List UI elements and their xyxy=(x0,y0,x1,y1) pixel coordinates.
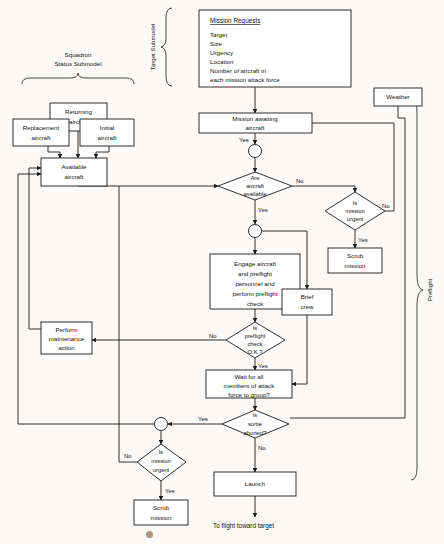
edge-maint-loop-up xyxy=(29,168,41,329)
node-is-preflight-ok[interactable]: Is preflight check O.K.? xyxy=(226,322,285,358)
available-aircraft-line2: aircraft xyxy=(65,173,84,180)
flowchart-svg: Target Submodel Squadron Status Submodel… xyxy=(0,0,444,544)
wait-line2: members of attack xyxy=(224,382,276,389)
engage-line4: perform preflight xyxy=(232,290,277,297)
edge-urgent-top-no-return xyxy=(282,123,394,211)
edge-no-to-urgent-top xyxy=(292,186,355,192)
sortie-line1: Is xyxy=(253,412,258,418)
sortie-line2: sortie xyxy=(248,421,262,427)
node-are-aircraft-available[interactable]: Are aircraft available xyxy=(218,172,292,200)
scrub-top-line2: mission xyxy=(345,262,367,269)
edge-brief-to-wait xyxy=(292,315,307,384)
weather-label: Weather xyxy=(386,93,409,100)
node-perform-maintenance[interactable]: Perform maintenance action xyxy=(41,322,92,354)
returning-aircraft-line1: Returning xyxy=(65,108,92,115)
flowchart-canvas: Target Submodel Squadron Status Submodel… xyxy=(0,0,444,544)
node-is-mission-urgent-bottom[interactable]: Is mission urgent xyxy=(137,444,186,481)
engage-line2: and preflight xyxy=(238,270,272,277)
preflight-line3: check xyxy=(247,341,262,347)
node-is-sortie-aborted[interactable]: Is sortie aborted? xyxy=(222,410,289,438)
maint-line1: Perform xyxy=(55,326,77,333)
page-smudge-artifact xyxy=(146,531,153,538)
maint-line3: action xyxy=(58,344,75,351)
label-urgent-bottom-yes: Yes xyxy=(165,488,175,494)
squadron-submodel-label-line2: Status Submodel xyxy=(54,60,101,67)
node-mission-requests[interactable]: Mission Requests Target Size Urgency Loc… xyxy=(199,10,351,87)
label-urgent-bottom-no: No xyxy=(124,453,132,459)
target-submodel-label: Target Submodel xyxy=(149,24,156,71)
label-sortie-no: No xyxy=(258,445,266,451)
mission-requests-title: Mission Requests xyxy=(210,17,260,25)
are-aircraft-available-line2: aircraft xyxy=(246,183,264,189)
squadron-submodel-label-line1: Squadron xyxy=(65,51,92,58)
mission-awaiting-line1: Mission awaiting xyxy=(232,115,278,122)
urgent-top-line3: urgent xyxy=(347,216,364,222)
label-urgent-top-yes: Yes xyxy=(358,237,368,243)
node-brief-crew[interactable]: Brief crew xyxy=(282,289,332,315)
scrub-top-line1: Scrub xyxy=(347,252,364,259)
preflight-line4: O.K.? xyxy=(248,349,264,355)
replacement-aircraft-line1: Replacement xyxy=(23,124,60,131)
sortie-line3: aborted? xyxy=(244,430,268,436)
preflight-line2: preflight xyxy=(245,333,266,339)
scrub-bottom-line1: Scrub xyxy=(153,504,170,511)
target-submodel-brace xyxy=(161,8,172,86)
junction-circle-2 xyxy=(249,225,262,238)
brief-crew-line1: Brief xyxy=(301,293,314,300)
urgent-bottom-line3: urgent xyxy=(153,467,170,473)
junction-circle-1 xyxy=(249,145,262,158)
node-is-mission-urgent-top[interactable]: Is mission urgent xyxy=(325,192,385,230)
launch-label: Launch xyxy=(245,480,266,487)
label-available-no: No xyxy=(296,178,304,184)
node-scrub-mission-top[interactable]: Scrub mission xyxy=(328,248,382,273)
are-aircraft-available-line3: available xyxy=(244,191,267,197)
available-aircraft-line1: Available xyxy=(62,163,88,170)
engage-line5: check xyxy=(247,300,264,307)
mission-awaiting-line2: aircraft xyxy=(246,124,265,131)
squadron-submodel-brace xyxy=(22,73,134,84)
urgent-top-line1: Is xyxy=(353,200,358,206)
initial-aircraft-line1: Initial xyxy=(100,124,114,131)
preflight-brace xyxy=(411,100,423,480)
scrub-bottom-line2: mission xyxy=(151,514,173,521)
node-replacement-aircraft[interactable]: Replacement aircraft xyxy=(13,119,69,146)
mission-requests-item-5: each mission attack force xyxy=(210,76,280,83)
preflight-line1: Is xyxy=(253,325,258,331)
urgent-bottom-line1: Is xyxy=(159,449,164,455)
wait-line1: Wait for all xyxy=(235,373,264,380)
engage-line3: personnel and xyxy=(235,280,275,287)
node-initial-aircraft[interactable]: Initial aircraft xyxy=(80,119,134,146)
engage-line1: Engage aircraft xyxy=(234,260,276,267)
mission-requests-item-3: Location xyxy=(210,58,234,65)
node-launch[interactable]: Launch xyxy=(214,472,296,496)
label-preflight-no: No xyxy=(209,333,217,339)
node-wait-for-members[interactable]: Wait for all members of attack force to … xyxy=(206,370,292,398)
node-available-aircraft[interactable]: Available aircraft xyxy=(41,158,107,186)
mission-requests-item-1: Size xyxy=(210,40,223,47)
label-awaiting-yes: Yes xyxy=(239,137,249,143)
preflight-label: Preflight xyxy=(426,278,433,301)
urgent-top-line2: mission xyxy=(345,208,365,214)
edge-left-rail-up xyxy=(18,174,154,424)
are-aircraft-available-line1: Are xyxy=(250,175,259,181)
urgent-bottom-line2: mission xyxy=(151,458,171,464)
label-available-yes: Yes xyxy=(258,207,268,213)
label-preflight-yes: Yes xyxy=(258,363,268,369)
mission-requests-item-0: Target xyxy=(210,31,227,38)
label-urgent-top-no: No xyxy=(382,203,390,209)
edge-replacement-to-available xyxy=(48,146,60,158)
label-sortie-yes: Yes xyxy=(198,416,208,422)
node-mission-awaiting-aircraft[interactable]: Mission awaiting aircraft xyxy=(199,113,312,133)
to-flight-toward-target-label: To flight toward target xyxy=(213,522,274,530)
replacement-aircraft-line2: aircraft xyxy=(32,134,51,141)
node-scrub-mission-bottom[interactable]: Scrub mission xyxy=(134,500,188,525)
maint-line2: maintenance xyxy=(49,335,85,342)
brief-crew-line2: crew xyxy=(300,303,314,310)
mission-requests-item-2: Urgency xyxy=(210,49,234,56)
mission-requests-item-4: Number of aircraft in xyxy=(210,67,267,74)
node-weather[interactable]: Weather xyxy=(374,88,422,106)
junction-circle-3 xyxy=(155,418,168,431)
wait-line3: force to group? xyxy=(228,391,270,398)
initial-aircraft-line2: aircraft xyxy=(98,134,117,141)
edge-initial-to-available xyxy=(96,146,109,158)
